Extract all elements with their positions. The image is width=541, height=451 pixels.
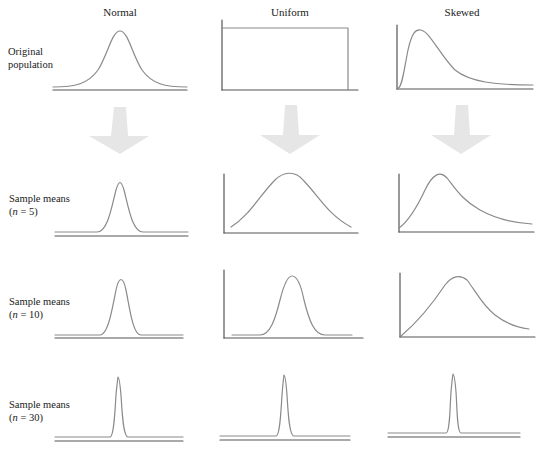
column-title-normal: Normal: [60, 6, 180, 18]
uniform-n5-plot: [224, 173, 358, 233]
row-label-line1: Sample means: [9, 295, 89, 308]
row-label-line1: Sample means: [9, 398, 89, 411]
row-label-line2: (n = 10): [9, 308, 89, 321]
density-curve: [231, 173, 351, 227]
density-curve: [222, 28, 348, 90]
row-label-n10: Sample means (n = 10): [9, 295, 89, 321]
column-title-skewed: Skewed: [402, 6, 522, 18]
skewed-n10-plot: [400, 273, 535, 337]
row-label-line1: Original: [8, 45, 88, 58]
skewed-original-plot: [397, 25, 533, 89]
density-curve: [399, 174, 532, 228]
row-label-n30: Sample means (n = 30): [9, 398, 89, 424]
density-curve: [388, 374, 520, 433]
uniform-original-plot: [222, 20, 358, 90]
uniform-n10-plot: [224, 270, 363, 338]
row-label-line1: Sample means: [9, 192, 89, 205]
density-curve: [401, 277, 529, 336]
density-curve: [232, 276, 352, 335]
row-label-line2: population: [8, 58, 88, 71]
skewed-n30-plot: [388, 374, 520, 437]
down-arrow-icon: [431, 105, 491, 154]
down-arrow-icon: [89, 107, 149, 154]
row-label-line2: (n = 30): [9, 411, 89, 424]
uniform-n30-plot: [220, 375, 350, 440]
density-curve: [398, 30, 533, 88]
row-label-original: Original population: [8, 45, 88, 71]
column-title-uniform: Uniform: [230, 6, 350, 18]
density-curve: [220, 375, 350, 436]
down-arrow-icon: [260, 105, 320, 154]
row-label-line2: (n = 5): [9, 205, 89, 218]
skewed-n5-plot: [399, 174, 534, 232]
row-label-n5: Sample means (n = 5): [9, 192, 89, 218]
